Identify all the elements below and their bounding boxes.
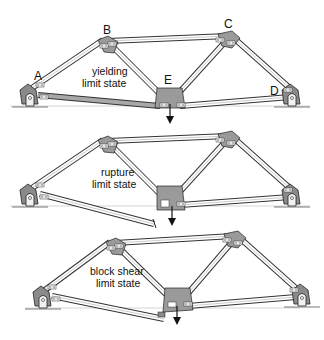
state-label-line2: limit state xyxy=(96,277,141,289)
state-label-line2: limit state xyxy=(92,178,137,190)
state-label-line2: limit state xyxy=(82,77,127,89)
state-label-line1: rupture xyxy=(101,166,134,178)
truss-diagram: A B C D E yielding limit state xyxy=(0,0,324,340)
state-label-line1: block shear xyxy=(90,265,144,277)
member-CE xyxy=(176,142,225,196)
node-label-C: C xyxy=(224,17,233,31)
truss-panel-block-shear: block shear limit state xyxy=(25,231,320,325)
node-label-E: E xyxy=(164,73,172,87)
node-label-A: A xyxy=(34,69,42,83)
member-CD xyxy=(236,40,292,90)
member-AE-block-shear xyxy=(52,296,165,319)
member-ED xyxy=(188,297,296,306)
member-CE xyxy=(184,242,232,298)
member-BC xyxy=(108,36,228,41)
member-ED xyxy=(180,197,290,205)
node-label-B: B xyxy=(103,23,111,37)
truss-panel-rupture: rupture limit state xyxy=(10,131,310,228)
member-AE-ruptured xyxy=(40,194,156,228)
member-BC xyxy=(115,236,233,243)
member-ED xyxy=(180,97,290,106)
member-AE-yielding xyxy=(38,95,160,106)
node-label-D: D xyxy=(270,84,279,98)
member-CD xyxy=(242,240,298,290)
truss-panel-yielding: A B C D E yielding limit state xyxy=(10,17,310,124)
state-label-line1: yielding xyxy=(92,65,128,77)
member-CD xyxy=(236,140,292,190)
member-CE xyxy=(176,42,225,96)
member-BC xyxy=(108,136,228,141)
